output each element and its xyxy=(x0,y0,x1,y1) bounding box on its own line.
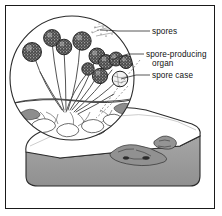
label-spores: spores xyxy=(152,27,177,36)
sporangium xyxy=(92,68,107,83)
bread-mold-illustration xyxy=(0,0,222,216)
sporangium xyxy=(56,39,72,55)
bread-mold-figure: spores spore-producing organ spore case xyxy=(0,0,222,216)
sporangium xyxy=(82,63,94,75)
label-spore-producing-organ-line1: spore-producing xyxy=(146,50,207,59)
sporangium xyxy=(73,32,91,50)
spore-case-open xyxy=(112,71,128,87)
sporangium xyxy=(23,43,42,62)
label-spore-producing-organ-line2: organ xyxy=(152,59,173,68)
label-spore-case: spore case xyxy=(152,71,193,80)
